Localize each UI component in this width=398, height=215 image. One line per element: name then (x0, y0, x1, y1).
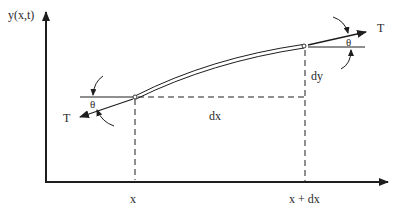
x-plus-dx-tick-label: x + dx (289, 193, 320, 205)
right-angle-arc-top (333, 17, 348, 33)
right-angle-arc-bottom (341, 50, 351, 69)
right-tension-label: T (377, 22, 384, 34)
right-tension-arrow (308, 32, 366, 45)
dx-label: dx (209, 110, 221, 122)
left-tension-arrow (80, 99, 133, 117)
diagram-canvas (0, 0, 398, 215)
left-angle-arc-bottom (97, 110, 114, 126)
left-angle-label: θ (90, 99, 95, 110)
left-tension-label: T (63, 112, 70, 124)
left-endpoint (133, 95, 137, 99)
string-element-diagram: y(x,t) θ T dx dy θ T x x + dx (0, 0, 398, 215)
dy-label: dy (311, 70, 323, 82)
x-tick-label: x (130, 193, 136, 205)
right-angle-label: θ (346, 37, 351, 48)
string-element-curve-inner (136, 48, 304, 99)
left-angle-arc-top (93, 76, 103, 95)
y-axis-label: y(x,t) (8, 9, 34, 21)
right-endpoint (302, 44, 306, 48)
